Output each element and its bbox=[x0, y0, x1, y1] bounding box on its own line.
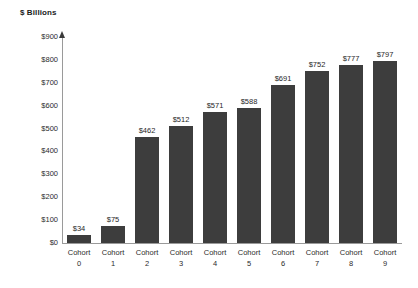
y-axis-tick-label: $600 bbox=[2, 101, 58, 110]
x-axis-category-label: Cohort5 bbox=[232, 247, 266, 269]
x-axis-category-name: Cohort bbox=[130, 247, 164, 258]
bar[interactable] bbox=[339, 65, 363, 243]
bar-value-label: $462 bbox=[127, 126, 167, 135]
bar[interactable] bbox=[305, 71, 329, 243]
bar-value-label: $34 bbox=[59, 224, 99, 233]
x-axis-category-number: 5 bbox=[232, 258, 266, 269]
x-axis-category-number: 9 bbox=[368, 258, 402, 269]
y-axis-tick-label: $100 bbox=[2, 215, 58, 224]
y-axis-tick-label: $700 bbox=[2, 78, 58, 87]
bar[interactable] bbox=[203, 112, 227, 243]
y-axis-tick-label: $800 bbox=[2, 55, 58, 64]
x-axis-category-name: Cohort bbox=[232, 247, 266, 258]
bar[interactable] bbox=[67, 235, 91, 243]
x-axis-category-number: 3 bbox=[164, 258, 198, 269]
bar[interactable] bbox=[237, 108, 261, 243]
x-axis-category-label: Cohort3 bbox=[164, 247, 198, 269]
x-axis-line bbox=[62, 243, 402, 244]
chart-page: $ Billions $0$100$200$300$400$500$600$70… bbox=[0, 0, 418, 288]
bar-series: $34$75$462$512$571$588$691$752$777$797 bbox=[62, 37, 402, 243]
x-axis-category-name: Cohort bbox=[266, 247, 300, 258]
x-axis-category-number: 2 bbox=[130, 258, 164, 269]
bar-slot[interactable]: $797 bbox=[368, 37, 402, 243]
bar-slot[interactable]: $75 bbox=[96, 37, 130, 243]
bar-slot[interactable]: $34 bbox=[62, 37, 96, 243]
x-axis-category-label: Cohort6 bbox=[266, 247, 300, 269]
x-axis-category-number: 6 bbox=[266, 258, 300, 269]
x-axis-category-name: Cohort bbox=[62, 247, 96, 258]
x-axis-category-number: 4 bbox=[198, 258, 232, 269]
bar-slot[interactable]: $777 bbox=[334, 37, 368, 243]
y-axis-tick-label: $300 bbox=[2, 169, 58, 178]
y-axis-tick-label: $400 bbox=[2, 146, 58, 155]
x-axis-category-number: 8 bbox=[334, 258, 368, 269]
x-axis-category-label: Cohort4 bbox=[198, 247, 232, 269]
bar-value-label: $512 bbox=[161, 115, 201, 124]
plot-area: $0$100$200$300$400$500$600$700$800$900 $… bbox=[0, 0, 418, 288]
bar-value-label: $691 bbox=[263, 74, 303, 83]
x-axis-category-name: Cohort bbox=[164, 247, 198, 258]
x-axis-category-name: Cohort bbox=[368, 247, 402, 258]
bar-slot[interactable]: $512 bbox=[164, 37, 198, 243]
x-axis-category-name: Cohort bbox=[334, 247, 368, 258]
x-axis-category-label: Cohort9 bbox=[368, 247, 402, 269]
bar[interactable] bbox=[373, 61, 397, 243]
y-axis-tick-label: $0 bbox=[2, 238, 58, 247]
x-axis-category-label: Cohort7 bbox=[300, 247, 334, 269]
bar[interactable] bbox=[169, 126, 193, 243]
y-axis-tick-label: $900 bbox=[2, 32, 58, 41]
y-axis-tick-labels: $0$100$200$300$400$500$600$700$800$900 bbox=[0, 0, 58, 288]
x-axis-category-name: Cohort bbox=[96, 247, 130, 258]
x-axis-category-number: 7 bbox=[300, 258, 334, 269]
x-axis-category-name: Cohort bbox=[300, 247, 334, 258]
bar-slot[interactable]: $691 bbox=[266, 37, 300, 243]
x-axis-category-labels: Cohort0Cohort1Cohort2Cohort3Cohort4Cohor… bbox=[62, 247, 402, 281]
x-axis-category-label: Cohort1 bbox=[96, 247, 130, 269]
bar-slot[interactable]: $571 bbox=[198, 37, 232, 243]
x-axis-category-label: Cohort0 bbox=[62, 247, 96, 269]
bar-value-label: $588 bbox=[229, 97, 269, 106]
x-axis-category-label: Cohort2 bbox=[130, 247, 164, 269]
x-axis-category-name: Cohort bbox=[198, 247, 232, 258]
bar-slot[interactable]: $752 bbox=[300, 37, 334, 243]
bar-slot[interactable]: $462 bbox=[130, 37, 164, 243]
bar[interactable] bbox=[271, 85, 295, 243]
bar[interactable] bbox=[135, 137, 159, 243]
x-axis-category-number: 1 bbox=[96, 258, 130, 269]
bar-value-label: $75 bbox=[93, 215, 133, 224]
y-axis-tick-label: $200 bbox=[2, 192, 58, 201]
bar-slot[interactable]: $588 bbox=[232, 37, 266, 243]
x-axis-category-number: 0 bbox=[62, 258, 96, 269]
bar-value-label: $797 bbox=[365, 50, 405, 59]
y-axis-tick-label: $500 bbox=[2, 124, 58, 133]
bar[interactable] bbox=[101, 226, 125, 243]
x-axis-category-label: Cohort8 bbox=[334, 247, 368, 269]
